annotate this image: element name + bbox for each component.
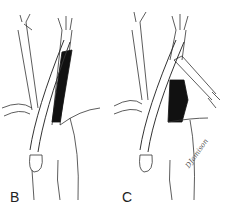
panel-label-c: C bbox=[122, 190, 132, 204]
panel-label-b: B bbox=[10, 190, 19, 204]
illustration-b bbox=[0, 0, 112, 208]
panel-c: DJamison C bbox=[112, 0, 225, 208]
panel-b: B bbox=[0, 0, 112, 208]
illustration-c bbox=[112, 0, 225, 208]
